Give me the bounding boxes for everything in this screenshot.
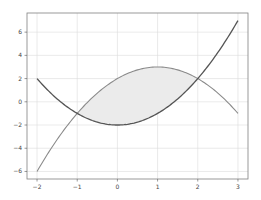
x-tick-label: 2 <box>196 183 200 190</box>
y-tick-label: −2 <box>13 121 22 128</box>
x-tick-label: 1 <box>156 183 160 190</box>
y-tick-label: 4 <box>18 51 22 58</box>
y-axis-ticks: −6−4−20246 <box>13 28 27 174</box>
y-tick-label: −4 <box>13 144 22 151</box>
x-axis-ticks: −2−10123 <box>33 179 240 190</box>
y-tick-label: 0 <box>18 98 22 105</box>
x-tick-label: 0 <box>115 183 119 190</box>
y-tick-label: 6 <box>18 28 22 35</box>
chart-canvas: −2−10123 −6−4−20246 <box>0 0 261 200</box>
x-tick-label: −2 <box>33 183 42 190</box>
y-tick-label: 2 <box>18 75 22 82</box>
x-tick-label: 3 <box>236 183 240 190</box>
x-tick-label: −1 <box>73 183 82 190</box>
y-tick-label: −6 <box>13 167 22 174</box>
filled-area-between-curves <box>77 67 198 125</box>
